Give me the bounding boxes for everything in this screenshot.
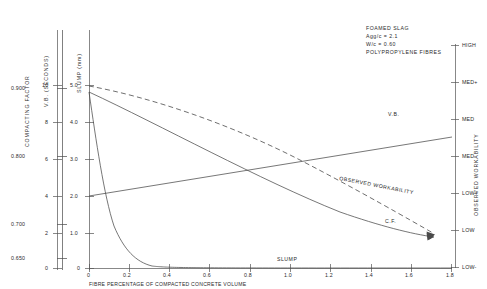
workability-ticklabel-1: MED+: [462, 79, 478, 85]
cf-ticklabel-1: 0.800: [11, 153, 25, 159]
slump-ticklabel-1: 4.0: [70, 119, 78, 125]
slump-ticklabel-0: 5.0: [70, 82, 78, 88]
x-ticklabel-6: 1.2: [325, 272, 333, 278]
slump-ticklabel-4: 1.0: [70, 230, 78, 236]
workability-ticklabel-0: HIGH: [462, 42, 476, 48]
x-ticklabel-3: 0.6: [203, 272, 211, 278]
cf-ticklabel-0: 0.900: [11, 85, 25, 91]
slump-ticklabel-2: 3.0: [70, 156, 78, 162]
annotation-fibre-type: POLYPROPYLENE FIBRES: [366, 49, 441, 56]
vb-ticklabel-2: 6: [45, 156, 48, 162]
series-label-vb: V.B.: [388, 111, 399, 117]
workability-axis-title: OBSERVED WORKABILITY: [473, 133, 479, 216]
vb-ticklabel-5: 0: [45, 265, 48, 271]
x-axis-title: FIBRE PERCENTAGE OF COMPACTED CONCRETE V…: [89, 281, 246, 287]
slump-ticklabel-3: 2.0: [70, 193, 78, 199]
x-ticklabel-4: 0.8: [244, 272, 252, 278]
x-ticklabel-8: 1.6: [405, 272, 413, 278]
x-ticklabel-7: 1.4: [365, 272, 373, 278]
workability-ticklabel-3: MED: [462, 153, 474, 159]
series-label-cf: C.F.: [385, 218, 396, 224]
annotation-material: FOAMED SLAG: [366, 25, 409, 32]
cf-ticklabel-3: 0.650: [11, 255, 25, 261]
series-observed-workability-curve: [89, 86, 433, 233]
slump-ticklabel-5: 0: [77, 265, 80, 271]
chart-canvas: COMPACTING FACTOR V.B. (SECONDS) SLUMP (…: [0, 0, 487, 289]
workability-ticklabel-4: LOW+: [462, 190, 478, 196]
annotation-agg-ratio: Agg/c = 2.1: [366, 33, 398, 40]
chart-svg: [0, 0, 487, 289]
vb-ticklabel-0: 10: [42, 82, 48, 88]
series-label-slump: SLUMP: [277, 256, 297, 262]
workability-ticklabel-2: MED: [462, 116, 474, 122]
series-cf-curve: [89, 92, 434, 237]
annotation-wc-ratio: W/c = 0.60: [366, 41, 396, 48]
vb-ticklabel-4: 2: [45, 230, 48, 236]
workability-ticklabel-5: LOW: [462, 227, 475, 233]
vb-ticklabel-3: 4: [45, 193, 48, 199]
x-ticklabel-1: 0.2: [123, 272, 131, 278]
workability-ticklabel-6: LOW-: [462, 264, 477, 270]
x-ticklabel-2: 0.4: [163, 272, 171, 278]
x-ticklabel-0: 0: [87, 272, 90, 278]
cf-ticklabel-2: 0.700: [11, 221, 25, 227]
vb-ticklabel-1: 8: [45, 119, 48, 125]
x-ticklabel-5: 1.0: [284, 272, 292, 278]
x-ticklabel-9: 1.8: [446, 272, 454, 278]
